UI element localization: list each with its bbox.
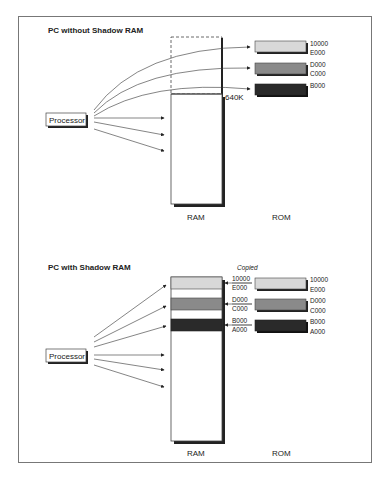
- panel-title: PC without Shadow RAM: [48, 26, 143, 35]
- panel-without-shadow-ram: PC without Shadow RAM 640K RAM ROM 10000…: [46, 26, 328, 222]
- svg-text:C000: C000: [232, 305, 248, 312]
- ram-label: RAM: [187, 449, 205, 458]
- processor-box: Processor: [46, 349, 88, 364]
- copied-label: Copied: [237, 264, 258, 272]
- svg-text:10000: 10000: [310, 276, 328, 283]
- ram-upper-memory-area: [171, 37, 222, 94]
- ram-shadow-e000: [171, 277, 222, 289]
- svg-text:B000: B000: [310, 318, 326, 325]
- rom-block-c000: D000 C000: [255, 61, 326, 77]
- ram-shadow-a000: [171, 319, 222, 331]
- shadow-ram-diagram: PC without Shadow RAM 640K RAM ROM 10000…: [0, 0, 390, 480]
- rom-label: ROM: [272, 449, 291, 458]
- rom-block-c000: D000 C000: [255, 297, 326, 314]
- svg-text:B000: B000: [310, 82, 326, 89]
- access-arrows: [94, 285, 166, 387]
- svg-text:10000: 10000: [310, 40, 328, 47]
- panel-with-shadow-ram: PC with Shadow RAM RAM ROM Copied 10000 …: [46, 263, 328, 458]
- svg-text:E000: E000: [232, 284, 248, 291]
- rom-label: ROM: [272, 213, 291, 222]
- svg-text:D000: D000: [232, 296, 248, 303]
- svg-text:E000: E000: [310, 286, 326, 293]
- svg-text:Processor: Processor: [49, 116, 85, 125]
- rom-block-e000: 10000 E000: [255, 40, 328, 56]
- rom-block-b000: B000: [255, 82, 326, 97]
- svg-text:Processor: Processor: [49, 352, 85, 361]
- svg-text:10000: 10000: [232, 275, 250, 282]
- svg-text:C000: C000: [310, 70, 326, 77]
- rom-block-a000: B000 A000: [255, 318, 326, 335]
- rom-block-e000: 10000 E000: [255, 276, 328, 293]
- svg-text:A000: A000: [310, 328, 326, 335]
- svg-text:A000: A000: [232, 326, 248, 333]
- ram-shadow-c000: [171, 298, 222, 310]
- ram-block: [171, 94, 222, 204]
- svg-text:D000: D000: [310, 297, 326, 304]
- svg-text:C000: C000: [310, 307, 326, 314]
- ram-640k-marker: 640K: [225, 93, 244, 102]
- svg-text:D000: D000: [310, 61, 326, 68]
- svg-text:E000: E000: [310, 49, 326, 56]
- svg-text:B000: B000: [232, 317, 248, 324]
- processor-box: Processor: [46, 113, 88, 128]
- panel-title: PC with Shadow RAM: [48, 263, 131, 272]
- ram-label: RAM: [187, 213, 205, 222]
